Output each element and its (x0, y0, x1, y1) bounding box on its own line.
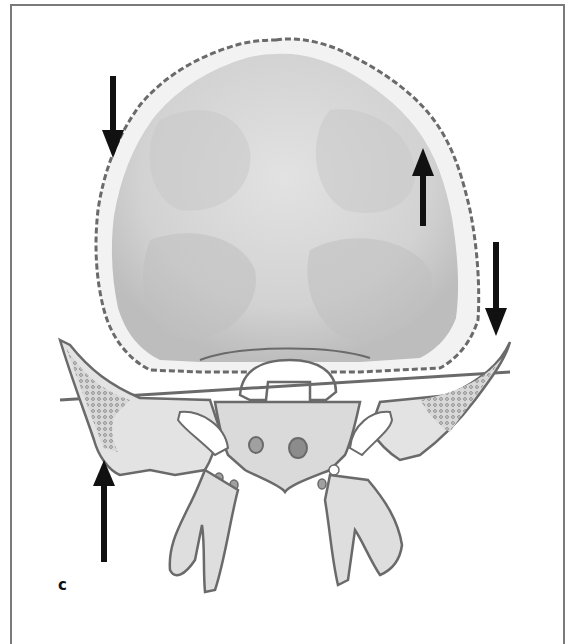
sphenoid-sinus-opening (289, 438, 307, 458)
sphenoid-sinus-opening (249, 437, 263, 453)
arrow-down-right-lateral (485, 242, 507, 336)
foramen-ovale (318, 479, 326, 489)
left-pterygoid-process (170, 470, 238, 592)
right-pterygoid-process (325, 475, 402, 585)
arrow-up-lower-left (93, 460, 115, 562)
foramen-rotundum (329, 465, 339, 475)
panel-label: c (58, 576, 67, 594)
